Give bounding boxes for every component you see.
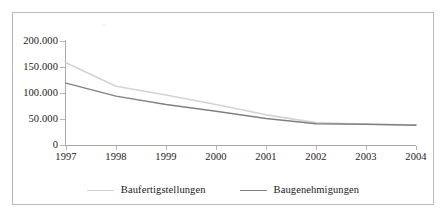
- x-axis-tick: [66, 146, 67, 150]
- x-axis-tick-label: 2004: [393, 152, 439, 163]
- x-axis-tick: [116, 146, 117, 150]
- y-axis-tick: [60, 41, 65, 42]
- x-axis-tick-label: 1999: [143, 152, 189, 163]
- y-axis-tick: [60, 145, 65, 146]
- y-axis-tick: [60, 119, 65, 120]
- x-axis-tick-label: 2002: [293, 152, 339, 163]
- chart-figure: 200.000150.000100.00050.0000 19971998199…: [0, 0, 446, 221]
- x-axis-tick: [166, 146, 167, 150]
- x-axis-tick: [316, 146, 317, 150]
- legend-label-baugenehmigungen: Baugenehmigungen: [274, 185, 360, 196]
- series-lines: [66, 41, 416, 145]
- y-axis-tick: [60, 93, 65, 94]
- x-axis-tick-label: 1997: [43, 152, 89, 163]
- x-axis-tick-label: 2000: [193, 152, 239, 163]
- x-axis-tick: [366, 146, 367, 150]
- x-axis-tick: [216, 146, 217, 150]
- chart-legend: Baufertigstellungen Baugenehmigungen: [12, 181, 434, 199]
- series-line-baugenehmigungen: [66, 83, 416, 125]
- legend-entry-baugenehmigungen: Baugenehmigungen: [240, 185, 360, 196]
- legend-label-baufertigstellungen: Baufertigstellungen: [121, 185, 206, 196]
- x-axis-line: [65, 145, 416, 146]
- legend-swatch-icon-baufertigstellungen: [87, 190, 114, 191]
- x-axis-tick: [416, 146, 417, 150]
- x-axis-tick-label: 2001: [243, 152, 289, 163]
- x-axis-tick: [266, 146, 267, 150]
- y-axis-tick: [60, 67, 65, 68]
- legend-swatch-icon-baugenehmigungen: [240, 190, 267, 191]
- plot-area: [66, 41, 416, 145]
- x-axis-tick-label: 1998: [93, 152, 139, 163]
- legend-entry-baufertigstellungen: Baufertigstellungen: [87, 185, 206, 196]
- x-axis-tick-label: 2003: [343, 152, 389, 163]
